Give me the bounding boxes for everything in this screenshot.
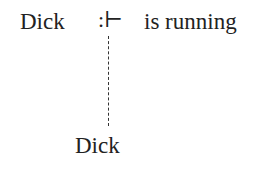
reference-dashed-line: [108, 36, 109, 126]
referent-label: Dick: [75, 134, 120, 157]
subject-label: Dick: [20, 10, 65, 33]
turnstile-operator: :⊢: [98, 9, 123, 31]
predicate-label: is running: [144, 10, 237, 33]
